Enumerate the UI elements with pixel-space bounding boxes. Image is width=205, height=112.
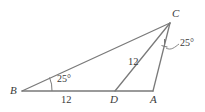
vertex-label-a: A [150, 94, 157, 105]
length-label-bd: 12 [61, 95, 72, 106]
angle-label-b: 25° [57, 74, 71, 84]
angle-arc-b [50, 78, 53, 92]
angle-label-dca: 25° [180, 38, 194, 48]
length-label-dc: 12 [128, 57, 139, 68]
leader-line-angle-c [166, 44, 179, 49]
vertex-label-d: D [110, 94, 118, 105]
vertex-label-c: C [172, 8, 179, 19]
vertex-label-b: B [10, 85, 17, 96]
segment-bc-line [22, 23, 170, 91]
geometry-figure: B D A C 12 12 25° 25° [0, 0, 205, 112]
